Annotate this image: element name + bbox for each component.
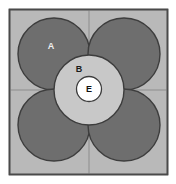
label-b: B <box>76 64 83 74</box>
figure-root: A B E <box>0 0 176 184</box>
label-e: E <box>86 84 92 94</box>
unit-cell-diagram: A B E <box>0 0 176 184</box>
label-a: A <box>48 41 55 51</box>
